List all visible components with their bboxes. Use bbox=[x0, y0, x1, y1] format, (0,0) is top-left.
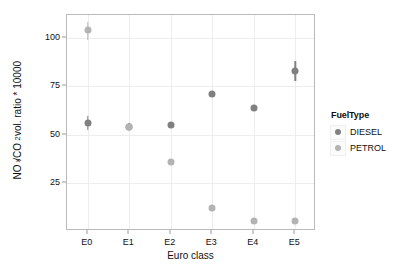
y-axis-tick-labels: 255075100 bbox=[34, 14, 60, 230]
legend-dot-icon bbox=[335, 129, 341, 135]
legend-dot-icon bbox=[335, 145, 341, 151]
data-point bbox=[250, 218, 257, 225]
data-point bbox=[292, 67, 299, 74]
y-axis-title-suffix: vol. ratio * 10000 bbox=[12, 61, 23, 139]
plot-panel bbox=[66, 14, 315, 230]
legend-item[interactable]: PETROL bbox=[330, 140, 410, 156]
x-axis-tick-labels: E0E1E2E3E4E5 bbox=[66, 237, 315, 251]
x-axis-tick-label: E3 bbox=[206, 237, 217, 247]
y-axis-title-text: NOx/CO2 vol. ratio * 10000 bbox=[12, 61, 23, 180]
y-axis-tick-label: 50 bbox=[34, 129, 60, 139]
x-axis-tick-label: E5 bbox=[289, 237, 300, 247]
legend-items: DIESELPETROL bbox=[330, 124, 410, 156]
data-point bbox=[84, 27, 91, 34]
y-axis-title: NOx/CO2 vol. ratio * 10000 bbox=[0, 0, 34, 240]
x-axis-tick-mark bbox=[294, 230, 295, 234]
x-axis-tick-mark bbox=[86, 230, 87, 234]
data-point bbox=[167, 158, 174, 165]
gridline-vertical bbox=[129, 15, 130, 229]
legend: FuelType DIESELPETROL bbox=[330, 110, 410, 156]
x-axis-title: Euro class bbox=[66, 250, 315, 261]
x-axis-tick-mark bbox=[169, 230, 170, 234]
gridline-vertical bbox=[295, 15, 296, 229]
data-point bbox=[209, 91, 216, 98]
y-axis-tick-label: 25 bbox=[34, 177, 60, 187]
x-axis-tick-label: E1 bbox=[123, 237, 134, 247]
y-axis-title-sub-2: 2 bbox=[13, 137, 22, 141]
x-axis-tick-label: E0 bbox=[81, 237, 92, 247]
data-point bbox=[292, 218, 299, 225]
gridline-horizontal bbox=[67, 135, 314, 136]
gridline-horizontal bbox=[67, 38, 314, 39]
data-point bbox=[167, 121, 174, 128]
x-axis-tick-mark bbox=[252, 230, 253, 234]
gridline-horizontal bbox=[67, 86, 314, 87]
data-point bbox=[84, 120, 91, 127]
x-axis-tick-mark bbox=[128, 230, 129, 234]
legend-item-label: PETROL bbox=[350, 143, 386, 153]
x-axis-tick-mark bbox=[211, 230, 212, 234]
legend-title: FuelType bbox=[331, 110, 410, 120]
y-axis-tick-label: 100 bbox=[34, 32, 60, 42]
y-axis-title-sub-x: x bbox=[13, 159, 22, 163]
data-point bbox=[126, 123, 133, 130]
x-axis-tick-label: E4 bbox=[247, 237, 258, 247]
data-point bbox=[209, 204, 216, 211]
gridline-vertical bbox=[212, 15, 213, 229]
data-point bbox=[250, 104, 257, 111]
chart-figure: NOx/CO2 vol. ratio * 10000 255075100 E0E… bbox=[0, 0, 413, 273]
y-axis-title-prefix: NO bbox=[12, 164, 23, 179]
legend-swatch bbox=[330, 141, 346, 156]
gridline-horizontal bbox=[67, 183, 314, 184]
x-axis-tick-label: E2 bbox=[164, 237, 175, 247]
x-axis-tick-marks bbox=[66, 230, 315, 235]
y-axis-tick-label: 75 bbox=[34, 80, 60, 90]
legend-swatch bbox=[330, 125, 346, 140]
gridline-vertical bbox=[254, 15, 255, 229]
legend-item-label: DIESEL bbox=[350, 127, 382, 137]
legend-item[interactable]: DIESEL bbox=[330, 124, 410, 140]
